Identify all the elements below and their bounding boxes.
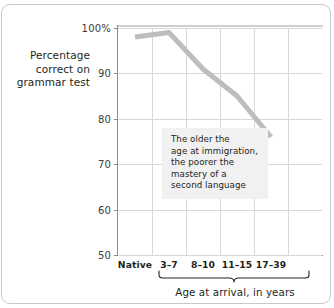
x-tick-label-17-39: 17–39: [256, 259, 287, 270]
annotation-line-4: mastery of a: [171, 169, 261, 181]
y-axis-title-line-1: Percentage: [8, 49, 90, 63]
y-tick-label-80: 80: [98, 114, 111, 125]
x-tick-label-8-10: 8–10: [191, 259, 215, 270]
x-tick-label-11-15: 11–15: [222, 259, 253, 270]
y-axis-title-line-2: correct on: [8, 63, 90, 77]
y-tick-label-60: 60: [98, 205, 111, 216]
annotation-line-5: second language: [171, 180, 261, 192]
y-tick-label-100: 100%: [82, 23, 111, 34]
y-tick-label-90: 90: [98, 68, 111, 79]
annotation-line-2: age at immigration,: [171, 146, 261, 158]
y-tick-label-50: 50: [98, 250, 111, 261]
y-axis-title-line-3: grammar test: [8, 76, 90, 90]
plot-top-rule: [117, 25, 323, 27]
y-tick-mark-50: [114, 255, 118, 256]
x-tick-label-native: Native: [118, 259, 152, 270]
chart-figure: Percentage correct on grammar test 100% …: [0, 0, 334, 308]
gridline-y-50: [118, 255, 322, 256]
chart-annotation: The older the age at immigration, the po…: [162, 128, 268, 199]
y-tick-label-70: 70: [98, 159, 111, 170]
y-axis-title: Percentage correct on grammar test: [8, 49, 90, 90]
plot-area: 100% 90 80 70 60 50 The older the age at…: [118, 28, 322, 255]
x-axis-title: Age at arrival, in years: [152, 286, 318, 298]
annotation-line-3: the poorer the: [171, 157, 261, 169]
x-tick-label-3-7: 3–7: [160, 259, 178, 270]
x-axis-brace-icon: [158, 270, 310, 283]
annotation-line-1: The older the: [171, 134, 261, 146]
